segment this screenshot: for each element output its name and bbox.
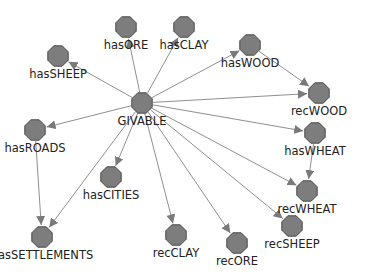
node-circle-icon[interactable] [309,83,329,103]
node-circle-icon[interactable] [116,17,136,37]
node-recCLAY[interactable]: recCLAY [153,225,201,260]
node-circle-icon[interactable] [166,225,186,245]
node-circle-icon[interactable] [101,167,121,187]
dependency-graph: GIVABLEhasOREhasCLAYhasSHEEPhasWOODrecWO… [0,0,379,274]
node-hasORE[interactable]: hasORE [104,17,149,52]
node-circle-icon[interactable] [297,181,317,201]
node-label: GIVABLE [118,114,167,128]
node-label: recCLAY [153,246,201,260]
node-hasSETTLEMENTS[interactable]: hasSETTLEMENTS [0,227,93,262]
node-label: recSHEEP [264,237,319,251]
node-circle-icon[interactable] [48,46,68,66]
node-label: recWOOD [291,104,347,118]
edge-GIVABLE-to-recWHEAT [152,108,297,185]
node-label: hasWOOD [221,56,280,70]
node-label: hasSHEEP [29,67,87,81]
edge-GIVABLE-to-hasSETTLEMENTS [49,112,135,228]
node-recWHEAT[interactable]: recWHEAT [277,181,337,216]
node-hasWHEAT[interactable]: hasWHEAT [284,123,347,158]
edge-GIVABLE-to-recWOOD [153,94,307,103]
node-label: hasWHEAT [284,144,347,158]
node-circle-icon[interactable] [174,17,194,37]
node-circle-icon[interactable] [132,93,152,113]
node-hasCITIES[interactable]: hasCITIES [83,167,140,202]
node-hasCLAY[interactable]: hasCLAY [159,17,209,52]
node-circle-icon[interactable] [240,35,260,55]
node-label: hasSETTLEMENTS [0,248,93,262]
node-label: hasROADS [4,141,65,155]
node-GIVABLE[interactable]: GIVABLE [118,93,167,128]
node-label: recORE [216,254,258,268]
node-recWOOD[interactable]: recWOOD [291,83,347,118]
node-circle-icon[interactable] [305,123,325,143]
node-label: recWHEAT [277,202,337,216]
node-label: hasCLAY [159,38,209,52]
node-layer: GIVABLEhasOREhasCLAYhasSHEEPhasWOODrecWO… [0,17,347,268]
edge-GIVABLE-to-hasWHEAT [153,105,303,131]
node-circle-icon[interactable] [282,216,302,236]
node-hasWOOD[interactable]: hasWOOD [221,35,280,70]
node-recSHEEP[interactable]: recSHEEP [264,216,319,251]
node-circle-icon[interactable] [227,233,247,253]
node-label: hasORE [104,38,149,52]
edge-GIVABLE-to-recSHEEP [151,110,283,218]
node-label: hasCITIES [83,188,140,202]
node-hasSHEEP[interactable]: hasSHEEP [29,46,87,81]
edge-GIVABLE-to-recORE [148,112,230,233]
node-circle-icon[interactable] [25,120,45,140]
node-recORE[interactable]: recORE [216,233,258,268]
edge-GIVABLE-to-recCLAY [145,114,173,224]
node-circle-icon[interactable] [32,227,52,247]
